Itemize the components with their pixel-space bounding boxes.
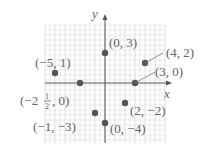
label-point-0-m4: (0, −4) <box>110 121 146 136</box>
svg-text:(−2: (−2 <box>20 93 38 108</box>
data-point <box>52 70 58 76</box>
x-axis-arrow-icon <box>166 81 172 86</box>
data-point <box>92 110 98 116</box>
svg-text:1: 1 <box>45 92 49 101</box>
x-axis-label: x <box>163 86 170 101</box>
svg-text:, 0): , 0) <box>52 93 69 108</box>
leader-line-4-2 <box>145 53 163 63</box>
label-point-m2half-0: (−2 1 2 , 0) <box>20 92 69 111</box>
label-point-3-0: (3, 0) <box>155 64 183 79</box>
data-point <box>102 50 108 56</box>
label-point-2-m2: (2, −2) <box>130 103 166 118</box>
label-point-m5-1: (−5, 1) <box>35 55 71 70</box>
y-axis-label: y <box>90 6 98 21</box>
y-axis-arrow-icon <box>103 14 108 20</box>
label-point-0-3: (0, 3) <box>109 35 137 50</box>
data-point <box>77 80 83 86</box>
label-point-m1-m3: (−1, −3) <box>33 119 76 134</box>
label-point-4-2: (4, 2) <box>166 45 194 60</box>
coordinate-plane: x y (0, 3) (4, 2) (−5, 1) (3, 0) (−2 1 2… <box>0 0 206 149</box>
svg-text:2: 2 <box>45 102 49 111</box>
data-point <box>102 120 108 126</box>
data-point <box>122 100 128 106</box>
